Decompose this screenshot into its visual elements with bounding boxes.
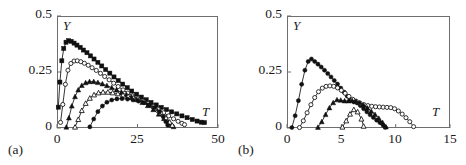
data-point-marker [63,82,67,86]
data-point-marker [202,121,206,125]
data-point-marker [103,74,107,78]
panel-label-b: (b) [238,142,254,158]
y-tick-label-b-1: 0.25 [244,62,282,78]
data-point-marker [69,104,74,109]
data-point-marker [109,85,114,90]
data-point-marker [339,88,343,92]
data-point-marker [76,117,81,122]
data-point-marker [335,86,339,90]
data-point-marker [120,97,124,101]
data-point-marker [195,119,199,123]
figure-root: Y T 0.5 0.25 0 0 25 50 (a) Y T 0.5 0.25 … [0,0,466,165]
data-point-marker [136,99,140,103]
data-point-marker [66,68,70,72]
data-point-marker [112,75,116,79]
data-point-marker [404,116,408,120]
data-point-marker [66,115,71,120]
data-point-marker [412,125,416,129]
data-point-marker [303,68,307,72]
data-point-marker [92,117,96,121]
data-point-marker [110,98,114,102]
x-tick-label-b-3: 15 [436,131,464,147]
data-point-marker [182,123,186,127]
y-tick-label-b-0: 0.5 [244,6,282,22]
data-point-marker [107,78,111,82]
x-tick-label-a-1: 25 [123,131,151,147]
data-point-marker [300,82,304,86]
data-point-marker [316,62,320,66]
data-point-marker [190,117,194,121]
data-point-marker [185,116,189,120]
data-point-marker [323,112,328,117]
x-tick-label-b-1: 5 [327,131,355,147]
y-axis-label-b: Y [293,18,300,34]
data-point-marker [322,68,326,72]
data-point-marker [125,97,129,101]
data-point-marker [180,114,184,118]
data-point-marker [161,115,165,119]
x-tick-label-b-0: 0 [273,131,301,147]
data-point-marker [166,123,170,127]
data-point-marker [73,94,78,99]
series-5-filled-circle [88,97,170,129]
data-point-marker [172,117,176,121]
data-point-marker [104,67,108,71]
data-point-marker [329,75,333,79]
x-tick-label-a-2: 50 [204,131,232,147]
data-point-marker [393,107,397,111]
data-point-marker [82,61,86,65]
data-point-marker [297,126,301,130]
panel-label-a: (a) [8,142,23,158]
data-point-marker [340,125,345,130]
data-point-marker [61,102,65,106]
data-point-marker [365,110,369,114]
series-2-open-circle [297,84,415,130]
data-point-marker [175,112,179,116]
data-point-marker [359,116,364,121]
data-point-marker [305,111,309,115]
data-point-marker [290,126,294,130]
data-point-marker [319,65,323,69]
data-point-marker [344,118,349,123]
data-point-marker [301,119,305,123]
data-point-marker [296,99,300,103]
data-point-marker [108,71,112,75]
data-point-marker [153,106,157,110]
series-3-filled-triangle [316,97,389,129]
data-point-marker [170,110,174,114]
data-point-marker [96,110,100,114]
data-point-marker [142,101,146,105]
x-axis-label-a: T [202,104,209,120]
data-point-marker [58,80,62,84]
data-point-marker [347,94,351,98]
data-point-marker [408,120,412,124]
data-point-marker [319,119,324,124]
data-point-marker [400,112,404,116]
data-point-marker [396,109,400,113]
data-point-marker [176,119,180,123]
data-point-marker [58,120,62,124]
data-point-marker [105,100,109,104]
data-point-marker [56,105,60,109]
data-point-marker [88,125,92,129]
data-point-marker [313,95,317,99]
data-point-marker [60,59,64,63]
data-point-marker [86,63,90,67]
data-point-marker [98,71,102,75]
data-point-marker [112,81,116,85]
data-point-marker [94,68,98,72]
y-axis-label-a: Y [63,18,70,34]
x-tick-label-b-2: 10 [381,131,409,147]
data-point-marker [130,89,134,93]
data-point-marker [147,103,151,107]
x-tick-label-a-0: 0 [43,131,71,147]
data-point-marker [62,46,66,50]
series-1-filled-square [56,39,206,125]
data-point-marker [316,90,320,94]
data-point-marker [326,72,330,76]
data-point-marker [125,86,129,90]
data-point-marker [157,110,161,114]
plot-canvas-a [0,0,233,165]
y-tick-label-a-1: 0.25 [14,62,52,78]
data-point-marker [115,97,119,101]
